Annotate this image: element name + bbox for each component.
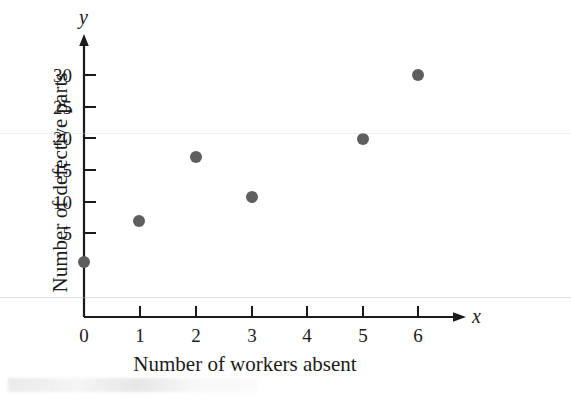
x-tick-label-2: 2 bbox=[191, 326, 201, 345]
x-axis-symbol: x bbox=[472, 306, 481, 326]
y-axis-title: Number of defective parts bbox=[48, 43, 73, 323]
data-points bbox=[78, 69, 424, 268]
x-axis-title: Number of workers absent bbox=[0, 352, 490, 377]
x-tick-label-0: 0 bbox=[79, 326, 89, 345]
x-axis bbox=[84, 312, 466, 322]
x-axis-ticks bbox=[84, 306, 418, 317]
x-tick-label-3: 3 bbox=[247, 326, 257, 345]
x-tick-label-1: 1 bbox=[135, 326, 145, 345]
data-point bbox=[190, 151, 202, 163]
data-point bbox=[357, 133, 369, 145]
x-tick-label-5: 5 bbox=[358, 326, 368, 345]
y-axis bbox=[79, 34, 89, 317]
data-point bbox=[133, 215, 145, 227]
data-point bbox=[412, 69, 424, 81]
x-tick-label-6: 6 bbox=[413, 326, 423, 345]
y-axis-ticks bbox=[84, 75, 96, 233]
data-point bbox=[78, 256, 90, 268]
y-axis-symbol: y bbox=[79, 7, 88, 27]
x-tick-label-4: 4 bbox=[302, 326, 312, 345]
scatter-plot-figure: 30 25 20 15 10 5 0 1 2 3 4 5 6 y x Numbe… bbox=[0, 0, 571, 401]
data-point bbox=[246, 191, 258, 203]
